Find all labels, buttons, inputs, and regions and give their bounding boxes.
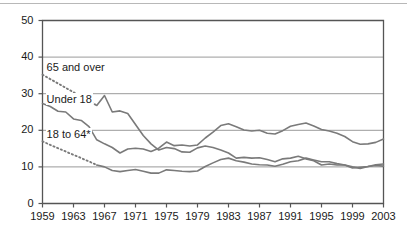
poverty-rate-line-chart: 01020304050 1959196319671971197519791983… [0,0,407,242]
chart-plot-area [0,0,407,242]
y-axis-label-40: 40 [8,50,34,62]
y-axis-label-30: 30 [8,87,34,99]
x-axis-label-2003: 2003 [364,210,404,222]
series-line-solid-1 [43,104,384,153]
series-line-dashed-2 [43,141,97,165]
plot-frame [43,21,384,204]
data-series-group [43,75,384,173]
series-label-under-18: Under 18 [46,93,93,105]
axis-tick-marks [39,21,384,208]
y-axis-label-20: 20 [8,123,34,135]
gridlines-group [43,57,384,167]
series-label-65-and-over: 65 and over [46,61,106,73]
series-line-solid-0 [97,96,384,168]
series-label-18-to-64: 18 to 64* [46,128,92,140]
y-axis-label-10: 10 [8,160,34,172]
y-axis-label-50: 50 [8,14,34,26]
y-axis-label-0: 0 [8,197,34,209]
plot-frame-path [43,21,384,204]
